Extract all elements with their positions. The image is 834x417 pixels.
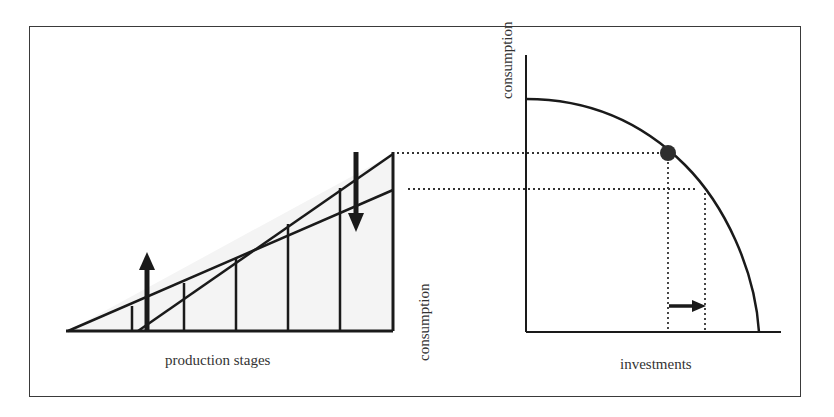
dotted-guides <box>397 153 705 331</box>
right-arrow-icon <box>669 300 706 312</box>
x-label-production-stages: production stages <box>165 352 270 369</box>
ppf-curve <box>526 99 759 332</box>
x-label-investments: investments <box>620 356 692 373</box>
allocation-point <box>660 145 676 161</box>
hayekian-triangle <box>66 152 393 331</box>
y-label-left-consumption: consumption <box>416 284 433 362</box>
y-label-right-consumption: consumption <box>499 22 516 100</box>
ppf-chart <box>526 55 781 332</box>
